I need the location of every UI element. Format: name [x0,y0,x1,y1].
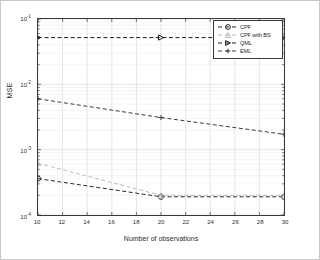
y-axis-label: MSE [6,59,13,123]
x-tick-label: 22 [182,219,189,225]
legend-line-sample [217,39,239,47]
legend-line-sample [217,23,239,31]
x-tick-label: 20 [158,219,165,225]
x-tick-label: 24 [207,219,214,225]
y-tick-label: 10-2 [20,80,31,88]
x-tick-label: 10 [34,219,41,225]
x-tick-label: 30 [282,219,289,225]
legend-item[interactable]: QML [217,39,279,47]
x-tick-label: 26 [232,219,239,225]
y-tick-label: 10-3 [20,146,31,154]
legend-line-sample [217,47,239,55]
legend-label: QML [240,39,252,47]
figure: 10-410-310-210-1 1012141618202224262830 … [0,0,320,260]
legend-item[interactable]: CPF with BS [217,31,279,39]
legend-label: CPF [240,23,251,31]
x-tick-label: 28 [257,219,264,225]
legend: CPFCPF with BSQMLEML [213,20,283,59]
y-tick-label: 10-4 [20,212,31,220]
x-tick-label: 12 [58,219,65,225]
x-tick-label: 14 [83,219,90,225]
x-axis-label: Number of observations [1,235,320,242]
y-tick-label: 10-1 [20,14,31,22]
legend-line-sample [217,31,239,39]
legend-item[interactable]: CPF [217,23,279,31]
legend-item[interactable]: EML [217,47,279,55]
legend-label: CPF with BS [240,31,271,39]
legend-label: EML [240,47,251,55]
x-tick-label: 18 [133,219,140,225]
x-tick-label: 16 [108,219,115,225]
